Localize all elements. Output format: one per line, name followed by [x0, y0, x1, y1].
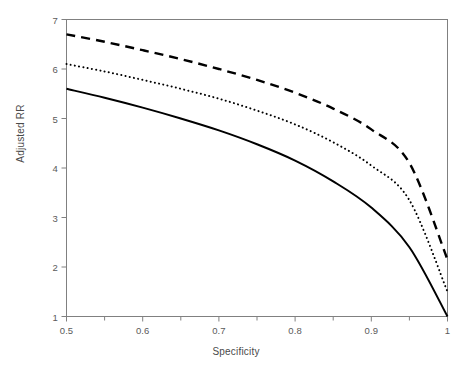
y-tick-label: 4	[40, 163, 58, 174]
series-dotted-curve	[67, 64, 448, 292]
plot-frame	[66, 19, 448, 317]
x-tick-label: 0.6	[136, 325, 150, 336]
x-tick-label: 0.7	[212, 325, 226, 336]
y-axis-title: Adjusted RR	[15, 84, 26, 184]
series-solid-curve	[67, 89, 448, 317]
x-tick-label: 1	[445, 325, 450, 336]
y-tick-label: 2	[40, 262, 58, 273]
y-tick-label: 3	[40, 212, 58, 223]
y-tick-label: 1	[40, 311, 58, 322]
y-tick-label: 5	[40, 113, 58, 124]
x-axis-title: Specificity	[0, 346, 472, 357]
y-tick-label: 6	[40, 64, 58, 75]
plot-canvas	[0, 0, 472, 368]
x-tick-label: 0.8	[288, 325, 302, 336]
data-series-group	[67, 34, 448, 316]
x-tick-label: 0.5	[60, 325, 74, 336]
chart-figure: 1234567 0.50.60.70.80.91 Specificity Adj…	[0, 0, 472, 368]
x-axis-minor-ticks	[105, 317, 410, 321]
x-tick-label: 0.9	[365, 325, 379, 336]
y-tick-label: 7	[40, 14, 58, 25]
